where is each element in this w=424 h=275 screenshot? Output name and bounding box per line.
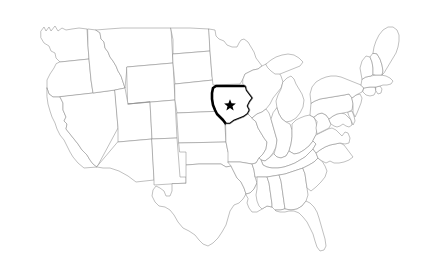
- state-south-dakota[interactable]: [173, 51, 213, 84]
- state-oklahoma[interactable]: [179, 142, 232, 167]
- state-rhode-island[interactable]: [376, 86, 382, 94]
- united-states-map: [0, 0, 424, 275]
- state-oregon[interactable]: [47, 59, 93, 97]
- state-north-dakota[interactable]: [171, 28, 210, 54]
- state-new-jersey[interactable]: [352, 94, 362, 117]
- state-outlines: [41, 26, 399, 251]
- state-connecticut[interactable]: [363, 87, 376, 96]
- state-wyoming[interactable]: [127, 63, 175, 104]
- map-container: [0, 0, 424, 275]
- state-michigan-upper[interactable]: [266, 54, 303, 74]
- state-washington[interactable]: [41, 26, 89, 62]
